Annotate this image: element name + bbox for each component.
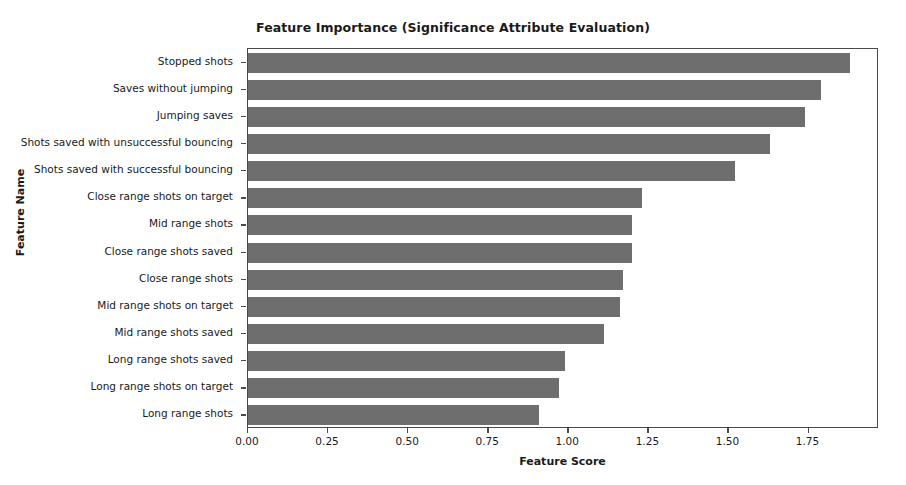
y-axis-tick-label: Stopped shots <box>158 56 233 67</box>
y-axis-tick-mark <box>241 306 246 307</box>
y-axis-tick-label: Jumping saves <box>157 110 233 121</box>
bar <box>248 80 821 100</box>
bar <box>248 243 632 263</box>
bar <box>248 134 770 154</box>
y-axis-tick-label: Long range shots saved <box>108 354 233 365</box>
chart-figure: Feature Importance (Significance Attribu… <box>0 0 906 485</box>
y-axis-tick-mark <box>241 89 246 90</box>
y-axis-tick-label: Close range shots <box>139 273 233 284</box>
y-axis-tick-mark <box>241 360 246 361</box>
x-axis-tick-label: 1.25 <box>636 435 659 447</box>
x-axis-tick-mark <box>727 428 728 433</box>
bar <box>248 297 620 317</box>
y-axis-tick-mark <box>241 387 246 388</box>
y-axis-tick-label: Mid range shots saved <box>114 327 233 338</box>
x-axis-tick-label: 1.00 <box>556 435 579 447</box>
y-axis-tick-label: Mid range shots <box>149 218 233 229</box>
y-axis-tick-label: Close range shots on target <box>87 191 233 202</box>
bar <box>248 53 850 73</box>
chart-title: Feature Importance (Significance Attribu… <box>0 20 906 35</box>
y-axis-tick-mark <box>241 116 246 117</box>
x-axis-tick-mark <box>567 428 568 433</box>
x-axis-tick-mark <box>247 428 248 433</box>
bar <box>248 270 623 290</box>
y-axis-tick-mark <box>241 333 246 334</box>
x-axis-tick-label: 1.75 <box>796 435 819 447</box>
bars-layer <box>248 49 877 427</box>
y-axis-tick-labels: Stopped shotsSaves without jumpingJumpin… <box>0 48 241 428</box>
x-axis-tick-mark <box>647 428 648 433</box>
bar <box>248 324 604 344</box>
y-axis-tick-mark <box>241 279 246 280</box>
y-axis-tick-label: Shots saved with successful bouncing <box>34 164 233 175</box>
y-axis-tick-label: Long range shots on target <box>91 381 233 392</box>
y-axis-tick-mark <box>241 224 246 225</box>
bar <box>248 188 642 208</box>
y-axis-tick-mark <box>241 414 246 415</box>
bar <box>248 351 565 371</box>
x-axis-tick-mark <box>808 428 809 433</box>
x-axis-tick-mark <box>407 428 408 433</box>
y-axis-tick-mark <box>241 143 246 144</box>
y-axis-tick-label: Shots saved with unsuccessful bouncing <box>21 137 233 148</box>
x-axis-tick-mark <box>327 428 328 433</box>
bar <box>248 378 559 398</box>
y-axis-tick-mark <box>241 197 246 198</box>
y-axis-tick-label: Saves without jumping <box>113 83 233 94</box>
x-axis-title: Feature Score <box>247 455 878 468</box>
x-axis-tick-label: 0.75 <box>476 435 499 447</box>
x-axis-tick-mark <box>487 428 488 433</box>
bar <box>248 215 632 235</box>
y-axis-tick-mark <box>241 62 246 63</box>
bar <box>248 405 539 425</box>
y-axis-tick-label: Mid range shots on target <box>97 300 233 311</box>
plot-area <box>247 48 878 428</box>
y-axis-tick-label: Close range shots saved <box>104 246 233 257</box>
x-axis-tick-label: 0.25 <box>315 435 338 447</box>
x-axis-tick-label: 1.50 <box>716 435 739 447</box>
bar <box>248 107 805 127</box>
y-axis-tick-mark <box>241 252 246 253</box>
y-axis-tick-mark <box>241 170 246 171</box>
y-axis-tick-label: Long range shots <box>142 408 233 419</box>
bar <box>248 161 735 181</box>
x-axis-tick-label: 0.00 <box>235 435 258 447</box>
x-axis-tick-label: 0.50 <box>395 435 418 447</box>
